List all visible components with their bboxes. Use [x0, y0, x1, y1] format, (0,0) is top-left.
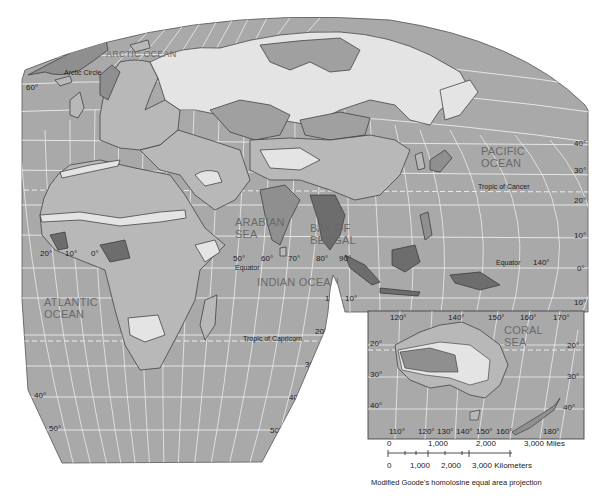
- lon-e80-label: 80°: [316, 254, 328, 263]
- australia-inset: CORAL SEA 120° 140° 150° 160° 170° 20° 3…: [368, 311, 584, 439]
- scale-miles-2000: 2,000: [476, 439, 496, 448]
- lon-e60-label: 60°: [261, 254, 273, 263]
- inset-lon-bottom-160: 160°: [496, 427, 513, 436]
- inset-lon-bottom-120: 120°: [418, 427, 435, 436]
- lon-e50-label: 50°: [233, 254, 245, 263]
- scale-miles-3000: 3,000 Miles: [524, 439, 565, 448]
- lon-w10-label: 10°: [65, 249, 77, 258]
- pacific-ocean-label-2: OCEAN: [481, 157, 521, 169]
- inset-lon-bottom-150: 150°: [476, 427, 493, 436]
- projection-caption: Modified Goode's homolosine equal area p…: [371, 478, 542, 487]
- lon-e90-label: 90°: [339, 254, 351, 263]
- inset-lon-top-150: 150°: [488, 313, 505, 322]
- coral-sea-label-1: CORAL: [504, 324, 543, 336]
- inset-lon-top-170: 170°: [553, 313, 570, 322]
- inset-lat-right-30: 30°: [567, 372, 579, 381]
- inset-lon-bottom-130: 130°: [437, 427, 454, 436]
- scale-bar: [388, 450, 512, 457]
- inset-lon-bottom-110: 110°: [389, 427, 405, 436]
- pacific-ocean-label-1: PACIFIC: [481, 145, 525, 157]
- equator-label-west: Equator: [235, 264, 260, 272]
- lat-50-south-left-label: 50°: [49, 424, 61, 433]
- indian-ocean-label: INDIAN OCEAN: [257, 276, 339, 288]
- lon-w20-label: 20°: [40, 249, 52, 258]
- inset-lat-right-40: 40°: [563, 403, 575, 412]
- lat-40-label: 40°: [574, 139, 586, 148]
- inset-lat-right-20: 20°: [567, 341, 579, 350]
- lon-0-label: 0°: [91, 249, 99, 258]
- scale-km-3000: 3,000 Kilometers: [472, 461, 532, 470]
- scale-km-2000: 2,000: [441, 461, 461, 470]
- lat-40-south-left-label: 40°: [34, 391, 46, 400]
- inset-lat-left-20: 20°: [370, 339, 382, 348]
- coral-sea-label-2: SEA: [504, 336, 527, 348]
- scale-km-1000: 1,000: [410, 461, 430, 470]
- tropic-of-cancer-label: Tropic of Cancer: [478, 183, 530, 191]
- arabian-sea-label-2: SEA: [235, 228, 258, 240]
- inset-lon-bottom-180: 180°: [543, 427, 560, 436]
- inset-lat-left-40: 40°: [370, 401, 382, 410]
- scale-km-0: 0: [387, 461, 391, 470]
- inset-lon-top-120: 120°: [390, 313, 407, 322]
- atlantic-ocean-label-1: ATLANTIC: [44, 296, 98, 308]
- inset-lon-top-140: 140°: [448, 313, 465, 322]
- tropic-of-capricorn-label: Tropic of Capricorn: [243, 335, 302, 343]
- lat-60-label: 60°: [26, 83, 38, 92]
- lat-10-center-b-label: 10°: [345, 294, 357, 303]
- inset-lat-left-30: 30°: [370, 370, 382, 379]
- lat-20-label: 20°: [574, 196, 586, 205]
- sri-lanka: [280, 247, 286, 256]
- lat-30-label: 30°: [574, 166, 586, 175]
- equator-label-east: Equator: [496, 259, 521, 267]
- lat-10-label: 10°: [574, 231, 586, 240]
- lat-10-center-a-label: 10°: [325, 294, 337, 303]
- lon-e70-label: 70°: [288, 254, 300, 263]
- lat-50-south-right-label: 50°: [270, 426, 282, 435]
- scale-miles-1000: 1,000: [428, 439, 448, 448]
- lat-0-label: 0°: [577, 264, 585, 273]
- lat-m10-label: 10°: [574, 298, 586, 307]
- arctic-ocean-label: ARCTIC OCEAN: [106, 49, 176, 59]
- inset-lon-top-160: 160°: [520, 313, 537, 322]
- arctic-circle-label: Arctic Circle: [64, 69, 101, 76]
- bay-of-bengal-label-1: BAY OF: [310, 222, 351, 234]
- arabian-sea-label-1: ARABIAN: [235, 216, 285, 228]
- lon-e140-label: 140°: [533, 258, 550, 267]
- atlantic-ocean-label-2: OCEAN: [44, 308, 84, 320]
- inset-lon-bottom-140: 140°: [456, 427, 473, 436]
- tasmania: [470, 410, 480, 420]
- scale-miles-0: 0: [387, 439, 391, 448]
- lat-30-south-label: 30°: [305, 360, 317, 369]
- bay-of-bengal-label-2: BENGAL: [310, 234, 356, 246]
- world-climate-map: ARCTIC OCEAN PACIFIC OCEAN ARABIAN SEA B…: [0, 0, 612, 501]
